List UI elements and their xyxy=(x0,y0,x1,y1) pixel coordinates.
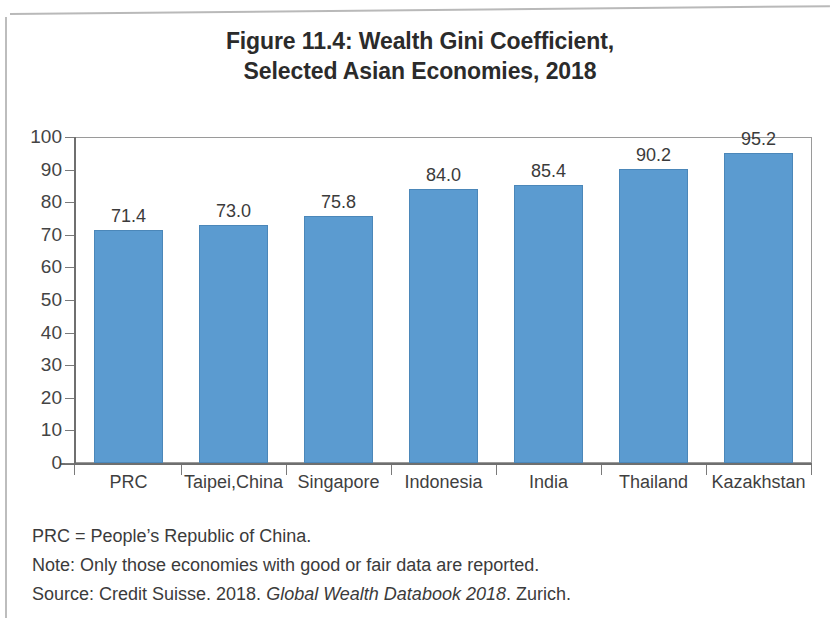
y-axis-tick xyxy=(65,202,74,203)
bar xyxy=(409,189,479,463)
footnotes: PRC = People’s Republic of China. Note: … xyxy=(32,522,812,609)
bar-value-label: 73.0 xyxy=(181,201,286,221)
page-title-line-2: Selected Asian Economies, 2018 xyxy=(60,56,780,86)
y-axis-tick-label: 30 xyxy=(6,355,62,374)
bar xyxy=(514,185,584,463)
footnote-source: Source: Credit Suisse. 2018. Global Weal… xyxy=(32,580,812,609)
y-axis-tick xyxy=(65,365,74,366)
bar-value-label: 75.8 xyxy=(286,192,391,212)
y-axis-tick-label: 70 xyxy=(6,225,62,244)
footnote-abbreviation: PRC = People’s Republic of China. xyxy=(32,522,812,551)
page-edge-top xyxy=(10,5,830,15)
y-axis-tick-label: 90 xyxy=(6,160,62,179)
source-prefix: Source: Credit Suisse. 2018. xyxy=(32,584,266,604)
y-axis-tick-label: 100 xyxy=(6,127,62,146)
y-axis-tick xyxy=(65,137,74,138)
bar xyxy=(199,225,269,463)
y-axis-tick xyxy=(65,333,74,334)
y-axis-tick xyxy=(65,398,74,399)
y-axis-tick-label: 60 xyxy=(6,257,62,276)
y-axis-tick-label: 20 xyxy=(6,388,62,407)
y-axis-tick xyxy=(65,170,74,171)
bar xyxy=(724,153,794,463)
x-axis-tick-label: Kazakhstan xyxy=(694,471,823,493)
y-axis-tick-label: 80 xyxy=(6,192,62,211)
bar-value-label: 95.2 xyxy=(706,129,811,149)
y-axis-tick-label: 0 xyxy=(6,453,62,472)
bar-value-label: 85.4 xyxy=(496,161,601,181)
bar-value-label: 90.2 xyxy=(601,145,706,165)
y-axis-tick xyxy=(65,463,74,464)
y-axis-tick xyxy=(65,235,74,236)
bar xyxy=(94,230,164,463)
x-axis-line xyxy=(60,463,812,465)
bar-value-label: 84.0 xyxy=(391,165,496,185)
footnote-note: Note: Only those economies with good or … xyxy=(32,551,812,580)
y-axis-tick-label: 10 xyxy=(6,420,62,439)
y-axis-line xyxy=(74,137,76,464)
y-axis-tick xyxy=(65,267,74,268)
source-publication-title: Global Wealth Databook 2018 xyxy=(266,584,506,604)
page-title-line-1: Figure 11.4: Wealth Gini Coefficient, xyxy=(60,26,780,56)
source-suffix: . Zurich. xyxy=(506,584,571,604)
bar xyxy=(304,216,374,463)
bar xyxy=(619,169,689,463)
y-axis-tick-label: 50 xyxy=(6,290,62,309)
y-axis-tick-label: 40 xyxy=(6,323,62,342)
page-title: Figure 11.4: Wealth Gini Coefficient, Se… xyxy=(60,26,780,86)
y-axis-tick xyxy=(65,430,74,431)
y-axis-tick xyxy=(65,300,74,301)
bar-value-label: 71.4 xyxy=(76,206,181,226)
